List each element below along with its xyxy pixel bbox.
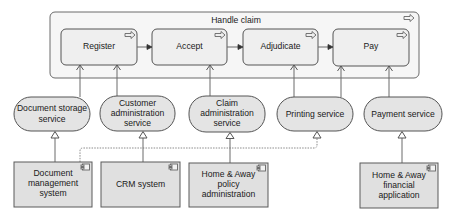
component-icon [427,165,436,171]
application-label-line: application [378,190,419,200]
handle-claim-title: Handle claim [211,15,261,25]
service-document-storage[interactable]: Document storage service [14,97,90,131]
application-label-line: CRM system [116,179,165,189]
service-label-line: Customer [119,98,156,108]
component-icon [169,164,178,170]
realization-triangle-icon [51,132,59,139]
archimate-diagram: Handle claim Register Accept Adjudicate … [0,0,452,217]
service-label-line: Printing service [286,109,345,119]
process-pay[interactable]: Pay [333,29,409,66]
application-label-line: Document [33,168,73,178]
application-home-away-policy-administration[interactable]: Home & Away policy administration [189,163,268,207]
application-document-management-system[interactable]: Document management system [14,162,92,207]
process-label: Register [83,41,115,51]
service-label-line: Claim [216,98,238,108]
application-label-line: system [39,188,66,198]
process-label: Pay [364,41,380,51]
application-label-line: policy [218,179,241,189]
realization-document-management-printing[interactable] [80,138,317,162]
realization-triangle-icon [139,132,147,139]
application-label-line: management [28,178,79,188]
process-accept[interactable]: Accept [152,29,227,65]
realization-triangle-icon [226,133,234,139]
process-label: Adjudicate [260,41,300,51]
service-label-line: service [124,118,151,128]
service-claim-administration[interactable]: Claim administration service [189,96,265,132]
service-label-line: administration [200,108,254,118]
application-crm-system[interactable]: CRM system [101,162,180,207]
service-customer-administration[interactable]: Customer administration service [100,96,175,131]
application-label-line: Home & Away [372,170,427,180]
process-label: Accept [176,41,203,51]
service-label-line: administration [111,108,165,118]
application-home-away-financial-application[interactable]: Home & Away financial application [360,163,438,208]
service-label-line: service [38,114,65,124]
realization-dotted-line[interactable] [80,138,317,162]
realization-triangle-icon [313,132,321,139]
application-label-line: Home & Away [202,169,257,179]
process-adjudicate[interactable]: Adjudicate [243,29,318,65]
service-label-line: service [213,118,240,128]
service-label-line: Payment service [371,109,435,119]
component-icon [257,165,266,171]
realization-triangle-icon [398,132,406,139]
application-label-line: financial [383,180,415,190]
service-label-line: Document storage [17,103,87,113]
component-icon [81,164,90,170]
process-register[interactable]: Register [61,29,137,65]
service-payment[interactable]: Payment service [364,97,442,131]
application-label-line: administration [202,189,256,199]
service-printing[interactable]: Printing service [277,97,353,131]
